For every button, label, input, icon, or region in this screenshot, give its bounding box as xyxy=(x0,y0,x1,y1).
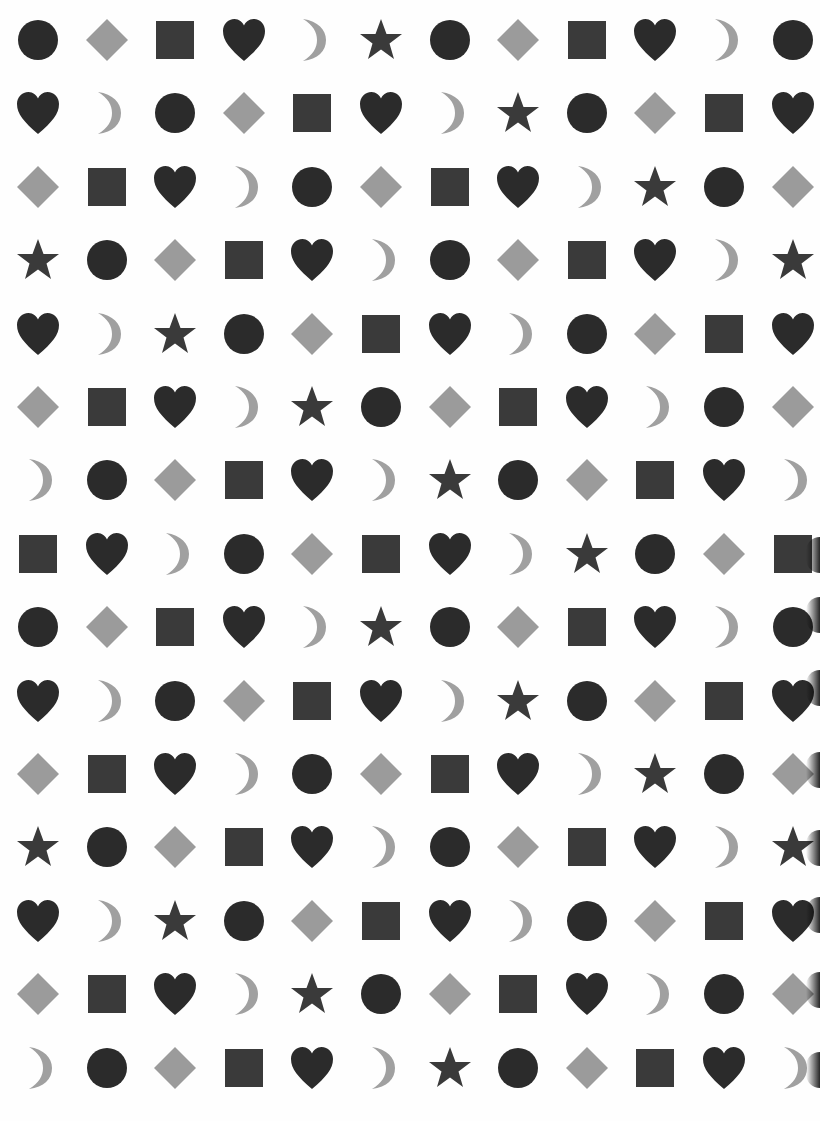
diamond-icon xyxy=(14,750,62,798)
square-icon xyxy=(151,603,199,651)
square-icon xyxy=(631,456,679,504)
heart-icon xyxy=(357,89,405,137)
binding-hole-shadow xyxy=(806,597,820,633)
moon-icon xyxy=(357,456,405,504)
star-icon xyxy=(151,897,199,945)
heart-icon xyxy=(563,970,611,1018)
moon-icon xyxy=(220,750,268,798)
moon-icon xyxy=(563,750,611,798)
heart-icon xyxy=(151,970,199,1018)
heart-icon xyxy=(220,16,268,64)
circle-icon xyxy=(83,823,131,871)
circle-icon xyxy=(426,823,474,871)
circle-icon xyxy=(700,163,748,211)
star-icon xyxy=(426,1044,474,1092)
circle-icon xyxy=(151,89,199,137)
circle-icon xyxy=(14,603,62,651)
circle-icon xyxy=(700,383,748,431)
diamond-icon xyxy=(769,163,817,211)
square-icon xyxy=(426,163,474,211)
diamond-icon xyxy=(494,823,542,871)
square-icon xyxy=(288,89,336,137)
square-icon xyxy=(220,456,268,504)
diamond-icon xyxy=(494,236,542,284)
circle-icon xyxy=(494,1044,542,1092)
star-icon xyxy=(357,16,405,64)
diamond-icon xyxy=(220,89,268,137)
circle-icon xyxy=(563,677,611,725)
heart-icon xyxy=(494,750,542,798)
circle-icon xyxy=(494,456,542,504)
circle-icon xyxy=(83,456,131,504)
heart-icon xyxy=(288,236,336,284)
diamond-icon xyxy=(288,310,336,358)
heart-icon xyxy=(357,677,405,725)
square-icon xyxy=(83,383,131,431)
diamond-icon xyxy=(151,236,199,284)
circle-icon xyxy=(631,530,679,578)
moon-icon xyxy=(494,897,542,945)
circle-icon xyxy=(357,383,405,431)
star-icon xyxy=(494,677,542,725)
moon-icon xyxy=(563,163,611,211)
heart-icon xyxy=(83,530,131,578)
heart-icon xyxy=(14,89,62,137)
diamond-icon xyxy=(288,897,336,945)
moon-icon xyxy=(357,236,405,284)
moon-icon xyxy=(426,677,474,725)
square-icon xyxy=(494,383,542,431)
moon-icon xyxy=(151,530,199,578)
binding-hole-shadow xyxy=(806,537,820,573)
heart-icon xyxy=(494,163,542,211)
circle-icon xyxy=(700,970,748,1018)
square-icon xyxy=(220,823,268,871)
heart-icon xyxy=(769,89,817,137)
moon-icon xyxy=(700,236,748,284)
star-icon xyxy=(151,310,199,358)
star-icon xyxy=(631,750,679,798)
heart-icon xyxy=(426,530,474,578)
diamond-icon xyxy=(14,970,62,1018)
star-icon xyxy=(288,970,336,1018)
moon-icon xyxy=(769,456,817,504)
moon-icon xyxy=(426,89,474,137)
square-icon xyxy=(494,970,542,1018)
diamond-icon xyxy=(631,310,679,358)
moon-icon xyxy=(631,970,679,1018)
moon-icon xyxy=(288,16,336,64)
heart-icon xyxy=(631,16,679,64)
binding-hole-shadow xyxy=(806,830,820,866)
heart-icon xyxy=(769,310,817,358)
star-icon xyxy=(14,823,62,871)
heart-icon xyxy=(288,823,336,871)
binding-hole-shadow xyxy=(806,1052,820,1088)
heart-icon xyxy=(220,603,268,651)
binding-hole-shadow xyxy=(806,752,820,788)
heart-icon xyxy=(700,1044,748,1092)
square-icon xyxy=(563,823,611,871)
moon-icon xyxy=(700,16,748,64)
heart-icon xyxy=(426,897,474,945)
star-icon xyxy=(563,530,611,578)
circle-icon xyxy=(357,970,405,1018)
moon-icon xyxy=(357,1044,405,1092)
moon-icon xyxy=(220,970,268,1018)
circle-icon xyxy=(288,750,336,798)
moon-icon xyxy=(631,383,679,431)
star-icon xyxy=(426,456,474,504)
circle-icon xyxy=(426,236,474,284)
moon-icon xyxy=(494,310,542,358)
moon-icon xyxy=(83,310,131,358)
square-icon xyxy=(151,16,199,64)
square-icon xyxy=(426,750,474,798)
binding-hole-shadow xyxy=(806,972,820,1008)
circle-icon xyxy=(220,897,268,945)
heart-icon xyxy=(14,897,62,945)
diamond-icon xyxy=(14,163,62,211)
circle-icon xyxy=(426,603,474,651)
moon-icon xyxy=(14,456,62,504)
circle-icon xyxy=(83,1044,131,1092)
square-icon xyxy=(700,677,748,725)
square-icon xyxy=(357,310,405,358)
circle-icon xyxy=(220,530,268,578)
